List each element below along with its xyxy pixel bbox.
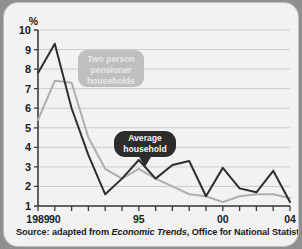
source-publication: Economic Trends	[111, 227, 186, 237]
chart-plot-area: 10987654321 % 198990950004 Two person pe…	[4, 3, 298, 246]
source-prefix: Source: adapted from	[16, 227, 111, 237]
source-suffix: , Office for National Statistics.	[187, 227, 298, 237]
x-axis-label-1990: 90	[49, 213, 61, 225]
callout-light-line-2: pensioner	[90, 65, 132, 75]
callout-average-household: Average household	[114, 131, 176, 167]
y-axis-label-1: 1	[25, 200, 31, 212]
x-axis-label-1989: 1989	[26, 213, 50, 225]
y-axis-label-6: 6	[25, 102, 31, 114]
y-axis-label-9: 9	[25, 44, 31, 56]
chart-panel: 10987654321 % 198990950004 Two person pe…	[4, 3, 298, 246]
x-axis-label-2004: 04	[284, 213, 296, 225]
callout-dark-line-2: household	[123, 144, 166, 154]
y-axis-label-2: 2	[25, 180, 31, 192]
series-line-average-household	[38, 44, 290, 202]
y-axis-label-8: 8	[25, 63, 31, 75]
line-chart-svg: 10987654321 % 198990950004 Two person pe…	[4, 3, 298, 246]
x-axis-label-2000: 00	[217, 213, 229, 225]
y-axis-label-4: 4	[25, 141, 32, 153]
callout-light-line-1: Two person	[87, 54, 135, 64]
y-axis-label-3: 3	[25, 161, 31, 173]
y-axis-label-5: 5	[25, 122, 31, 134]
y-axis-labels-group: 10987654321	[19, 24, 32, 212]
callout-dark-line-1: Average	[128, 133, 162, 143]
x-axis-label-1995: 95	[133, 213, 145, 225]
callout-light-line-3: households	[87, 76, 135, 86]
source-note: Source: adapted from Economic Trends, Of…	[16, 227, 294, 237]
y-axis-unit-label: %	[29, 15, 39, 27]
callout-two-person-pensioner-households: Two person pensioner households	[78, 50, 144, 87]
x-axis-labels-group: 198990950004	[26, 213, 296, 225]
y-axis-label-7: 7	[25, 83, 31, 95]
